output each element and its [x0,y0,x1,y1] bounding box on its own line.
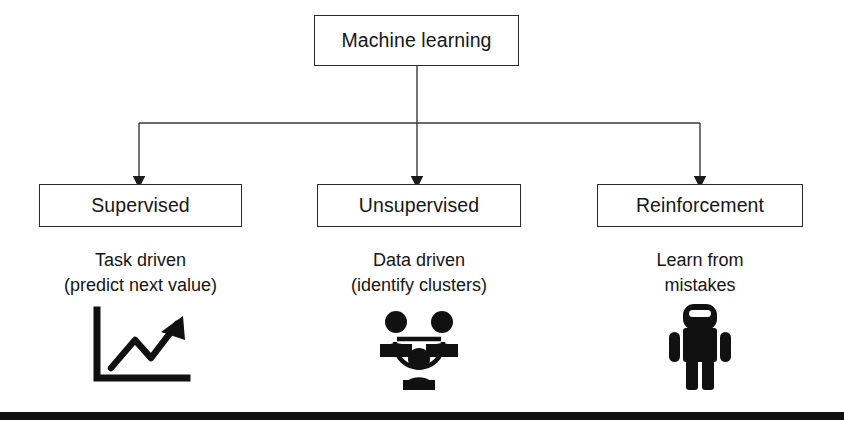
node-supervised-label: Supervised [91,194,190,217]
machine-learning-taxonomy-diagram: Machine learning Supervised Unsupervised… [0,0,844,431]
bottom-divider-rule [0,412,844,420]
people-cluster-icon [317,306,521,390]
node-reinforcement-label: Reinforcement [636,194,764,217]
node-machine-learning: Machine learning [314,15,519,66]
robot-figure-icon [597,302,803,390]
caption-supervised-line1: Task driven [95,250,186,270]
caption-supervised: Task driven (predict next value) [39,248,242,298]
node-unsupervised: Unsupervised [317,184,521,227]
caption-unsupervised-line1: Data driven [373,250,465,270]
caption-reinforcement: Learn from mistakes [597,248,803,298]
caption-supervised-line2: (predict next value) [39,273,242,298]
caption-unsupervised: Data driven (identify clusters) [317,248,521,298]
node-reinforcement: Reinforcement [597,184,803,227]
node-supervised: Supervised [39,184,242,227]
caption-reinforcement-line1: Learn from [656,250,743,270]
node-unsupervised-label: Unsupervised [359,194,479,217]
node-machine-learning-label: Machine learning [341,29,491,52]
caption-reinforcement-line2: mistakes [597,273,803,298]
caption-unsupervised-line2: (identify clusters) [317,273,521,298]
line-chart-up-arrow-icon [39,306,242,390]
